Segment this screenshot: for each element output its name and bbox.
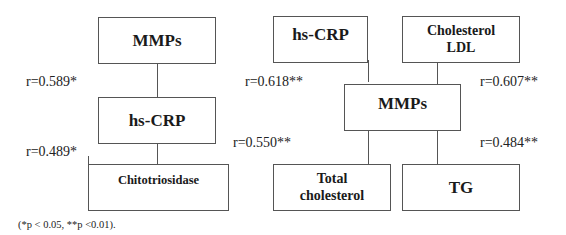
right-mmps-label: MMPs bbox=[378, 94, 427, 114]
right-correlation-tg: r=0.484** bbox=[480, 135, 538, 151]
left-mmps-label: MMPs bbox=[132, 31, 181, 51]
left-mmps-box: MMPs bbox=[98, 17, 216, 64]
right-total-label-line1: Total bbox=[300, 171, 364, 187]
right-correlation-ldl: r=0.607** bbox=[480, 74, 538, 90]
right-mmps-box: MMPs bbox=[344, 84, 461, 131]
right-connector-mmps-tg bbox=[437, 130, 438, 164]
left-chito-tick bbox=[88, 156, 89, 165]
left-chitotriosidase-box: Chitotriosidase bbox=[88, 164, 229, 211]
right-ldl-box: Cholesterol LDL bbox=[402, 16, 520, 63]
left-connector-hscrp-chito bbox=[157, 143, 158, 164]
right-hscrp-box: hs-CRP bbox=[273, 16, 368, 63]
left-connector-mmps-hscrp bbox=[157, 63, 158, 97]
right-ldl-label-line1: Cholesterol bbox=[427, 23, 495, 39]
significance-footnote: (*p < 0.05, **p <0.01). bbox=[18, 219, 116, 230]
right-total-cholesterol-box: Total cholesterol bbox=[273, 164, 391, 211]
right-total-label-line2: cholesterol bbox=[300, 188, 364, 204]
right-hscrp-label: hs-CRP bbox=[292, 25, 349, 45]
right-tg-box: TG bbox=[402, 164, 520, 211]
right-tg-label: TG bbox=[449, 178, 474, 198]
right-connector-ldl-mmps bbox=[437, 62, 438, 84]
left-hscrp-box: hs-CRP bbox=[98, 97, 216, 144]
right-ldl-label-line2: LDL bbox=[427, 40, 495, 56]
left-correlation-2: r=0.489* bbox=[26, 144, 77, 160]
left-hscrp-label: hs-CRP bbox=[129, 111, 186, 131]
right-correlation-hscrp: r=0.618** bbox=[245, 74, 303, 90]
left-chitotriosidase-label: Chitotriosidase bbox=[118, 173, 199, 187]
right-correlation-total: r=0.550** bbox=[233, 135, 291, 151]
left-correlation-1: r=0.589* bbox=[26, 74, 77, 90]
right-connector-mmps-total bbox=[368, 130, 369, 164]
right-connector-hscrp-mmps bbox=[368, 60, 369, 82]
